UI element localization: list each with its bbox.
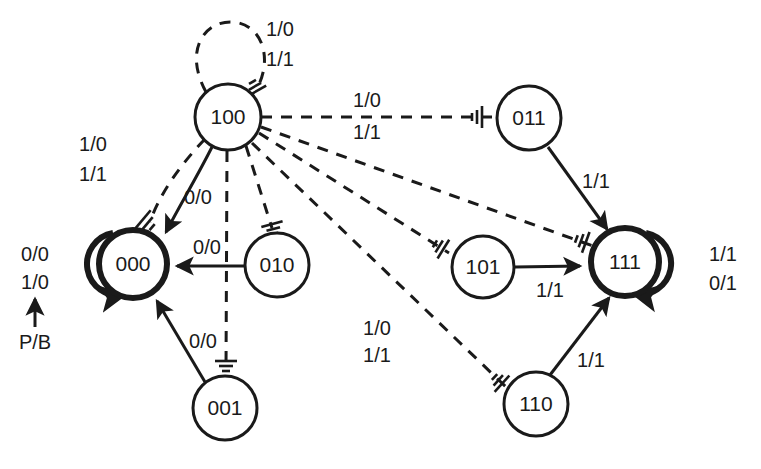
label-011-111: 1/1 [582, 170, 610, 192]
state-label-001: 001 [207, 396, 242, 419]
label-001-000: 0/0 [189, 330, 217, 352]
transition-labels: 1/0 1/1 1/0 1/1 0/0 1/0 1/1 0/0 0/0 1/0 … [19, 18, 737, 371]
state-label-011: 011 [512, 106, 545, 129]
edge-100-to-001-dashed [226, 151, 227, 371]
label-110-111: 1/1 [577, 349, 605, 371]
label-100-000-solid: 0/0 [184, 186, 212, 208]
hatch-mark-icon [573, 229, 590, 253]
state-node-000[interactable]: 000 [99, 230, 167, 298]
state-label-110: 110 [519, 392, 552, 415]
label-loop-100-a: 1/0 [266, 18, 294, 40]
state-label-000: 000 [115, 252, 150, 275]
state-label-101: 101 [465, 255, 500, 278]
label-loop-111-b: 0/1 [709, 272, 737, 294]
label-010-000: 0/0 [193, 236, 221, 258]
label-100-110-a: 1/0 [363, 317, 391, 339]
label-101-111: 1/1 [536, 279, 564, 301]
hatch-mark-icon [472, 106, 482, 128]
state-node-011[interactable]: 011 [497, 86, 561, 150]
label-100-110-b: 1/1 [363, 344, 391, 366]
edge-101-to-111-solid [515, 266, 580, 267]
hatch-mark-icon [215, 361, 237, 371]
state-label-100: 100 [210, 105, 245, 128]
label-loop-111-a: 1/1 [709, 243, 737, 265]
label-100-000-dashed-b: 1/1 [79, 163, 107, 185]
state-label-010: 010 [259, 253, 294, 276]
label-100-011-b: 1/1 [353, 121, 381, 143]
state-node-100[interactable]: 100 [195, 84, 261, 150]
label-reset-b: 1/0 [21, 271, 49, 293]
hatch-mark-icon [429, 234, 449, 258]
state-node-101[interactable]: 101 [452, 236, 514, 298]
state-machine-diagram: 100 000 010 001 011 101 [0, 0, 761, 469]
label-reset-source: P/B [19, 331, 51, 353]
state-node-010[interactable]: 010 [245, 233, 309, 297]
label-100-011-a: 1/0 [353, 89, 381, 111]
label-loop-100-b: 1/1 [266, 48, 294, 70]
label-reset-a: 0/0 [21, 243, 49, 265]
label-100-000-dashed-a: 1/0 [79, 133, 107, 155]
state-node-001[interactable]: 001 [193, 376, 257, 440]
state-label-111: 111 [609, 250, 641, 273]
state-node-110[interactable]: 110 [504, 372, 568, 436]
state-node-111[interactable]: 111 [591, 228, 659, 296]
fsm-canvas: 100 000 010 001 011 101 [0, 0, 761, 469]
